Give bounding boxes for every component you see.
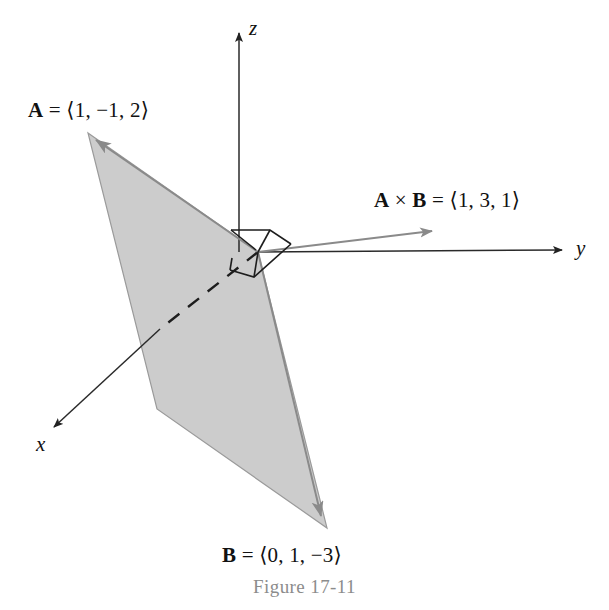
x-axis-label: x: [36, 434, 45, 455]
vector-a-equals: =: [49, 98, 61, 122]
vector-b-equals: =: [242, 543, 254, 567]
vector-cross-arrow: [258, 231, 432, 252]
cross-product-operator-icon: ×: [395, 188, 407, 212]
figure-caption: Figure 17-11: [0, 576, 609, 598]
vector-b-components: ⟨0, 1, −3⟩: [259, 543, 342, 567]
vector-cross-equals: =: [432, 188, 444, 212]
vector-plane-parallelogram: [88, 133, 327, 528]
vector-cross-label: A × B = ⟨1, 3, 1⟩: [374, 190, 520, 211]
y-axis-line: [258, 250, 562, 252]
vector-cross-symbol-b: B: [412, 188, 426, 212]
vector-a-components: ⟨1, −1, 2⟩: [66, 98, 149, 122]
vector-a-symbol: A: [28, 98, 43, 122]
vector-cross-symbol-a: A: [374, 188, 389, 212]
x-axis-line: [54, 329, 160, 427]
vector-b-label: B = ⟨0, 1, −3⟩: [222, 545, 342, 566]
vector-cross-components: ⟨1, 3, 1⟩: [450, 188, 521, 212]
vector-a-label: A = ⟨1, −1, 2⟩: [28, 100, 149, 121]
y-axis-label: y: [576, 238, 585, 259]
z-axis-label: z: [249, 18, 257, 39]
vector-b-symbol: B: [222, 543, 236, 567]
figure-canvas: [0, 0, 609, 610]
vector-cross-product-figure: A = ⟨1, −1, 2⟩ A × B = ⟨1, 3, 1⟩ B = ⟨0,…: [0, 0, 609, 610]
